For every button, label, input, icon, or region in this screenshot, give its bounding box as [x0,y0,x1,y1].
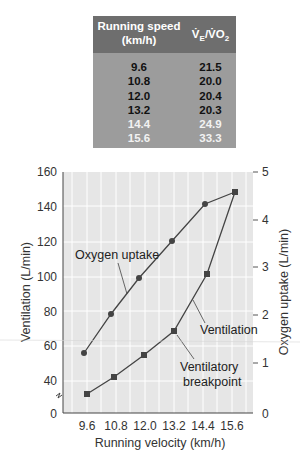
svg-text:12.0: 12.0 [133,419,157,433]
svg-text:1: 1 [262,356,269,370]
oxygen-uptake-annotation: Oxygen uptake [75,248,159,262]
svg-text:5: 5 [262,165,269,179]
svg-text:40: 40 [44,374,58,388]
svg-text:9.6: 9.6 [79,419,96,433]
breakpoint-annotation-2: breakpoint [183,375,242,389]
svg-text:3: 3 [262,260,269,274]
svg-text:160: 160 [37,165,57,179]
svg-text:14.4: 14.4 [191,419,215,433]
y-axis-label: Ventilation (L/min) [19,242,33,342]
svg-text:0: 0 [262,407,269,421]
y2-axis-label: Oxygen uptake (L/min) [277,229,291,355]
svg-text:13.2: 13.2 [162,419,186,433]
svg-text:2: 2 [262,308,269,322]
svg-text:80: 80 [44,305,58,319]
svg-text:4: 4 [262,213,269,227]
svg-text:15.6: 15.6 [220,419,244,433]
svg-text:120: 120 [37,235,57,249]
svg-text:140: 140 [37,200,57,214]
chart: 160140120100 8060400 543 210 9.610.812.0… [0,0,300,461]
breakpoint-annotation-1: Ventilatory [180,360,239,374]
ventilation-annotation: Ventilation [200,323,258,337]
svg-text:10.8: 10.8 [104,419,128,433]
y-tick-labels: 160140120100 8060400 [37,165,57,421]
svg-text:0: 0 [50,407,57,421]
x-axis-label: Running velocity (km/h) [95,436,226,450]
y2-tick-labels: 543 210 [262,165,269,421]
svg-text:60: 60 [44,339,58,353]
x-tick-labels: 9.610.812.0 13.214.415.6 [79,419,244,433]
axis-break-icon [56,393,62,398]
svg-text:100: 100 [37,270,57,284]
